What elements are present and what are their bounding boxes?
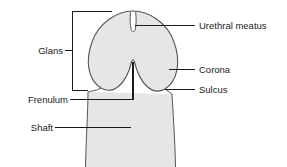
label-shaft: Shaft — [31, 122, 54, 133]
label-sulcus: Sulcus — [199, 84, 228, 95]
label-corona: Corona — [199, 64, 231, 75]
label-glans: Glans — [38, 45, 63, 56]
organ-illustration — [86, 11, 178, 167]
shaft-body-shape — [86, 92, 176, 167]
anatomical-diagram: Glans Frenulum Shaft Urethral meatus Cor… — [0, 0, 287, 167]
urethral-meatus-shape — [130, 12, 136, 31]
label-urethral-meatus: Urethral meatus — [199, 20, 267, 31]
label-frenulum: Frenulum — [28, 94, 68, 105]
sulcus-left-outline — [88, 88, 101, 92]
diagram-canvas: Glans Frenulum Shaft Urethral meatus Cor… — [0, 0, 287, 167]
